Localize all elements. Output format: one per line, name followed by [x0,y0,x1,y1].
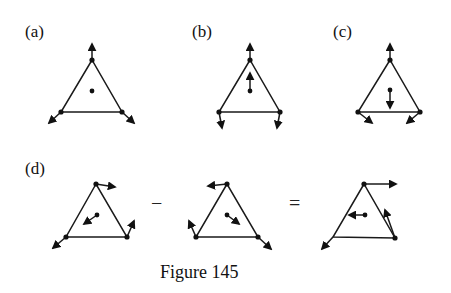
panel-label-d: (d) [25,159,45,178]
arrow-down-right-icon [358,112,372,123]
panel-label-a: (a) [25,22,44,41]
vertex-dot [277,109,282,114]
triangle-d1 [53,181,134,248]
center-dot [225,213,230,218]
triangle-edges [358,60,420,112]
vertex-dot [361,181,366,186]
vertex-dot [193,234,198,239]
triangle-edges [66,184,127,237]
arrow-up-left-icon [189,221,196,237]
center-dot [95,213,100,218]
triangle-b [216,44,282,128]
panel-label-c: (c) [333,22,352,41]
figure-145: (a) (b) (c) (d) [0,0,451,293]
vertex-dot [216,109,221,114]
triangle-edges [196,184,258,237]
arrow-left-icon [208,184,227,186]
vertex-dot [89,57,94,62]
center-dot [363,213,368,218]
panel-label-b: (b) [192,22,212,41]
center-dot [248,89,253,94]
arrow-right-icon [96,184,115,187]
vertex-dot [58,109,63,114]
triangle-d3 [322,181,398,249]
arrow-up-right-icon [127,221,134,237]
vertex-dot [93,181,98,186]
center-dot [90,89,95,94]
vertex-dot [355,109,360,114]
triangle-edges [61,60,122,112]
vertex-dot [124,234,129,239]
center-dot [388,88,393,93]
vertex-dot [63,234,68,239]
minus-operator: − [151,192,162,214]
triangle-a [49,44,134,123]
vertex-dot [387,57,392,62]
vertex-dot [247,57,252,62]
triangle-c [355,44,422,123]
figure-caption: Figure 145 [160,262,239,282]
equals-operator: = [289,192,300,214]
vertex-dot [119,109,124,114]
arrow-down-right-icon [258,237,271,249]
vertex-dot [417,109,422,114]
triangle-d2 [189,181,271,249]
vertex-dot [224,181,229,186]
vertex-dot [255,234,260,239]
vertex-dot [392,235,397,240]
arrow-down-left-icon [322,237,333,249]
